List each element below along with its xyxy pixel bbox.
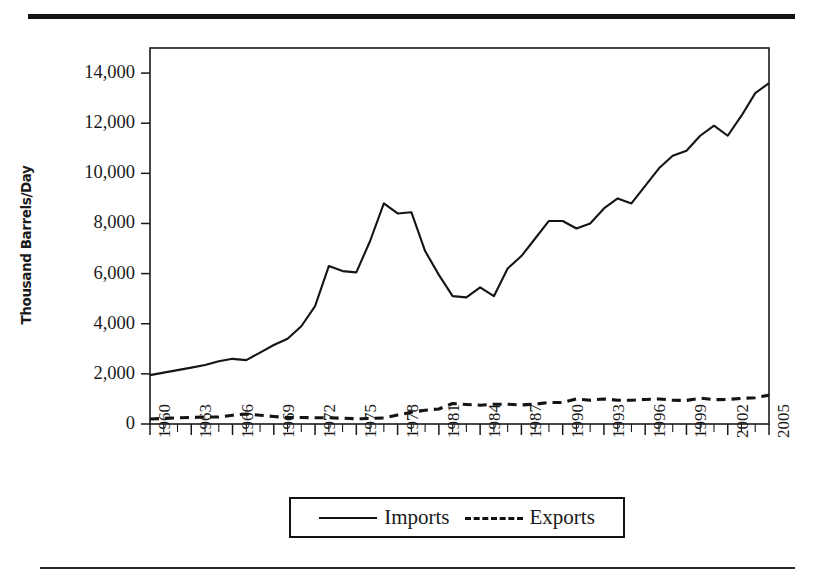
y-axis-tick-label: 12,000 — [55, 113, 135, 132]
plot-frame — [150, 48, 769, 424]
legend-label: Imports — [384, 507, 449, 528]
y-axis-tick-label: 4,000 — [55, 314, 135, 333]
y-axis-tick-label: 10,000 — [55, 163, 135, 182]
x-axis-tick-label: 1978 — [404, 404, 421, 438]
x-axis-tick-label: 1969 — [280, 404, 297, 438]
x-axis-tick-label: 1972 — [321, 404, 338, 438]
x-axis-tick-label: 1975 — [362, 404, 379, 438]
y-axis-tick-label: 6,000 — [55, 264, 135, 283]
y-axis-tick-label: 0 — [55, 414, 135, 433]
x-axis-tick-label: 1990 — [569, 404, 586, 438]
bottom-horizontal-rule — [40, 567, 795, 569]
legend-line-swatch-solid — [319, 512, 377, 524]
x-axis-tick-label: 1981 — [445, 404, 462, 438]
legend-label: Exports — [530, 507, 595, 528]
x-axis-tick-label: 1966 — [239, 404, 256, 438]
legend-line-swatch-dashed — [465, 512, 523, 524]
legend-entry: Exports — [465, 507, 595, 528]
figure-container: Thousand Barrels/Day 02,0004,0006,0008,0… — [0, 0, 823, 581]
legend-entry: Imports — [319, 507, 449, 528]
chart-legend: ImportsExports — [289, 497, 625, 538]
y-axis-tick-label: 8,000 — [55, 213, 135, 232]
x-axis-tick-label: 2005 — [775, 404, 792, 438]
chart-svg — [0, 0, 823, 581]
x-axis-tick-label: 1987 — [527, 404, 544, 438]
x-axis-tick-label: 1984 — [486, 404, 503, 438]
x-axis-tick-label: 1963 — [197, 404, 214, 438]
x-axis-tick-label: 2002 — [734, 404, 751, 438]
x-axis-tick-label: 1996 — [651, 404, 668, 438]
y-axis-tick-label: 2,000 — [55, 364, 135, 383]
x-axis-tick-label: 1993 — [610, 404, 627, 438]
line-chart: Thousand Barrels/Day 02,0004,0006,0008,0… — [0, 0, 823, 581]
y-axis-title: Thousand Barrels/Day — [18, 145, 34, 345]
y-axis-tick-label: 14,000 — [55, 63, 135, 82]
x-axis-tick-label: 1999 — [692, 404, 709, 438]
x-axis-tick-label: 1960 — [156, 404, 173, 438]
